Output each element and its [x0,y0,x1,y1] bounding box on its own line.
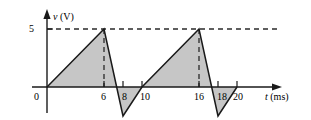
x-tick-label-16: 16 [194,92,204,102]
x-tick-label-6: 6 [101,92,106,102]
y-tick-label-5: 5 [29,24,34,34]
x-tick-label-20: 20 [233,92,243,102]
x-axis-symbol: t [265,91,268,102]
x-axis-title: t (ms) [265,92,289,102]
waveform-figure: 5 v (V) 0 6 8 10 16 18 20 t (ms) [0,0,311,120]
waveform-plot [0,0,311,120]
y-axis-title: v (V) [53,12,74,22]
x-tick-label-8: 8 [122,92,127,102]
y-axis-symbol: v [53,11,57,22]
y-axis-unit: (V) [60,11,74,22]
x-tick-label-18: 18 [217,92,227,102]
x-axis-unit: (ms) [270,91,288,102]
x-tick-label-0: 0 [34,92,39,102]
time-axis-arrowhead [272,83,282,90]
voltage-axis-arrowhead [43,9,50,19]
x-tick-label-10: 10 [140,92,150,102]
